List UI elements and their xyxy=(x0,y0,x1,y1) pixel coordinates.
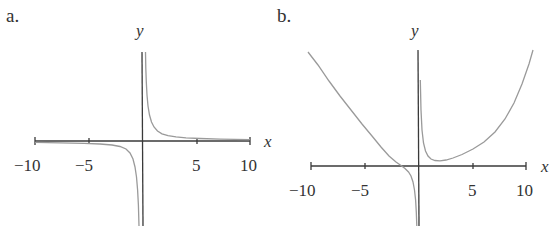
panel-a-y-axis-label: y xyxy=(134,21,144,40)
panel-b-curve-right-branch xyxy=(420,50,533,161)
panel-a: a. y x −10 −5 5 10 xyxy=(6,5,272,226)
panel-b-label: b. xyxy=(277,5,291,26)
panel-a-tick-label: 5 xyxy=(192,156,201,175)
panel-a-tick-label: 10 xyxy=(240,156,257,175)
panel-b-tick-label: −5 xyxy=(351,181,369,200)
panel-b-y-axis xyxy=(418,50,419,226)
panel-b: b. y x −10 −5 5 10 xyxy=(277,5,549,226)
panel-a-tick-label: −10 xyxy=(14,156,41,175)
panel-b-tick-label: −10 xyxy=(289,181,316,200)
panel-b-x-axis-label: x xyxy=(540,157,549,176)
figure: a. y x −10 −5 5 10 b. y x −10 xyxy=(0,0,551,226)
panel-a-label: a. xyxy=(6,5,19,26)
panel-b-y-axis-label: y xyxy=(409,21,419,40)
panel-a-tick-label: −5 xyxy=(75,156,93,175)
panel-a-x-axis-label: x xyxy=(263,132,272,151)
panel-a-y-axis xyxy=(142,52,143,226)
panel-a-curve-right-branch xyxy=(146,52,251,140)
panel-a-curve-left-branch xyxy=(35,142,139,226)
panel-b-tick-label: 5 xyxy=(468,181,477,200)
panel-b-tick-label: 10 xyxy=(516,181,533,200)
